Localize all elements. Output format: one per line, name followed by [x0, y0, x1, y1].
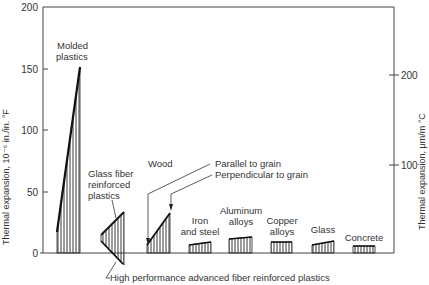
bar-glass — [312, 241, 334, 253]
label-alu-1: Aluminum — [220, 205, 262, 216]
label-cu-2: alloys — [270, 226, 295, 237]
label-iron-1: Iron — [192, 215, 208, 226]
ytick-200: 200 — [21, 2, 38, 13]
ytick-right-100: 100 — [401, 160, 418, 171]
bar-wood — [146, 164, 212, 253]
y-axis-title-right: Thermal expansion, μm/m °C — [417, 113, 427, 230]
label-alu-2: alloys — [229, 216, 254, 227]
label-parallel-to-grain: Parallel to grain — [215, 158, 281, 169]
axes — [40, 7, 399, 253]
bar-copper-alloys — [271, 242, 292, 253]
label-molded-1: Molded — [57, 40, 88, 51]
ytick-100: 100 — [21, 125, 38, 136]
label-cu-1: Copper — [266, 215, 297, 226]
label-wood: Wood — [148, 158, 173, 169]
ytick-50: 50 — [27, 187, 39, 198]
label-iron-2: and steel — [181, 226, 220, 237]
ytick-right-200: 200 — [401, 70, 418, 81]
bar-molded-plastics — [57, 67, 80, 253]
label-glass: Glass — [311, 224, 336, 235]
label-gf-1: Glass fiber — [88, 168, 133, 179]
label-high-performance: High performance advanced fiber reinforc… — [110, 272, 330, 283]
bar-glass-fiber-rp — [101, 200, 124, 265]
chart-figure: 200 150 100 50 0 200 100 Thermal expansi… — [0, 0, 429, 285]
bar-iron-steel — [189, 242, 211, 253]
bar-concrete — [353, 246, 375, 253]
ytick-0: 0 — [32, 248, 38, 259]
bar-aluminum-alloys — [229, 237, 252, 253]
ytick-150: 150 — [21, 64, 38, 75]
y-axis-title-left: Thermal expansion, 10⁻⁶ in./in. °F — [1, 109, 11, 245]
label-perpendicular-to-grain: Perpendicular to grain — [215, 169, 308, 180]
label-gf-3: plastics — [88, 190, 120, 201]
label-molded-2: plastics — [56, 51, 88, 62]
label-gf-2: reinforced — [88, 179, 130, 190]
label-concrete: Concrete — [345, 232, 384, 243]
